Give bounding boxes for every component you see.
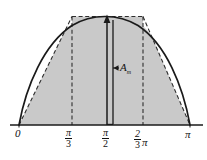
figure-container: 0 π 3 π 2 2 3 π π <box>0 0 207 160</box>
figure-svg <box>0 0 207 160</box>
